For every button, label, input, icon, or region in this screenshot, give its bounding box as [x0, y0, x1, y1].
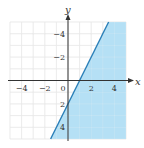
svg-text:4: 4 [60, 123, 65, 132]
svg-text:0: 0 [60, 84, 65, 93]
svg-text:−2: −2 [39, 84, 51, 93]
inequality-graph: −4−202442−2−4 x y [0, 0, 144, 148]
x-axis-label: x [135, 76, 141, 87]
svg-text:−4: −4 [16, 84, 28, 93]
svg-text:4: 4 [112, 84, 117, 93]
y-axis-label: y [64, 4, 71, 15]
svg-text:−4: −4 [53, 30, 65, 39]
svg-text:2: 2 [60, 100, 65, 109]
svg-text:−2: −2 [53, 53, 65, 62]
svg-text:2: 2 [89, 84, 94, 93]
